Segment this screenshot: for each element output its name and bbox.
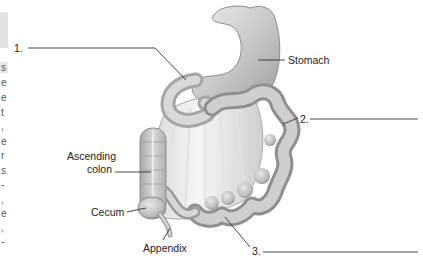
leader-line-1 xyxy=(28,48,186,80)
anatomy-illustration xyxy=(0,0,423,258)
label-cecum: Cecum xyxy=(91,206,124,218)
label-appendix: Appendix xyxy=(143,242,187,254)
blank-number-1: 1. xyxy=(14,42,23,54)
label-ascending-colon-line1: Ascending xyxy=(64,150,116,162)
blank-number-2: 2. xyxy=(300,113,309,125)
label-ascending-colon-line2: colon xyxy=(64,163,112,175)
diagram-canvas: s e e t , e r s - , e , - xyxy=(0,0,423,258)
label-stomach: Stomach xyxy=(288,54,329,66)
blank-number-3: 3. xyxy=(252,245,261,257)
